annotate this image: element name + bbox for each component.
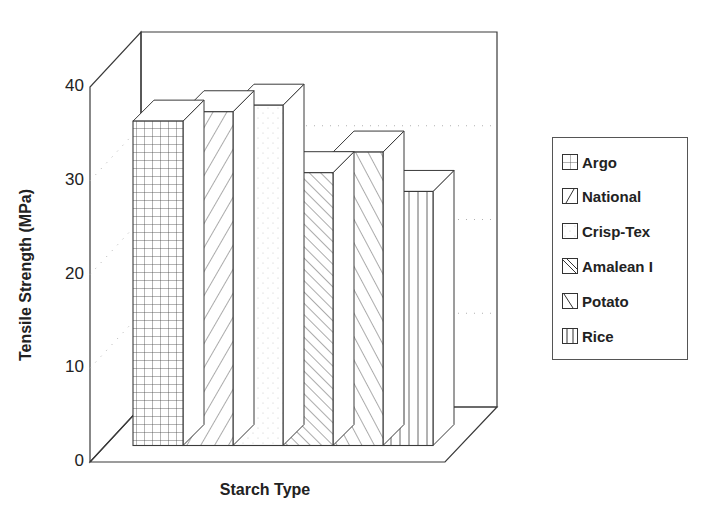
grid-pattern-swatch-icon [562, 154, 578, 170]
y-tick-label: 40 [65, 76, 84, 96]
bars [133, 84, 454, 445]
y-tick-label: 30 [65, 170, 84, 190]
diagonal-up-swatch-icon [562, 188, 578, 204]
y-tick-label: 20 [65, 264, 84, 284]
y-axis-title: Tensile Strength (MPa) [17, 189, 35, 361]
dotted-swatch-icon [562, 223, 578, 239]
legend: Argo National Crisp-Tex Amalean I Potato… [552, 137, 688, 360]
x-axis-title: Starch Type [220, 481, 310, 499]
legend-item-potato: Potato [562, 291, 629, 311]
legend-item-argo: Argo [562, 152, 617, 172]
legend-item-rice: Rice [562, 326, 614, 346]
legend-item-amalean-i: Amalean I [562, 256, 653, 276]
bar-argo [133, 100, 204, 445]
steep-diagonal-swatch-icon [562, 293, 578, 309]
legend-item-crisp-tex: Crisp-Tex [562, 221, 650, 241]
y-tick-label: 10 [65, 357, 84, 377]
diagonal-down-swatch-icon [562, 258, 578, 274]
legend-item-national: National [562, 186, 641, 206]
vertical-lines-swatch-icon [562, 328, 578, 344]
y-tick-label: 0 [75, 451, 84, 471]
